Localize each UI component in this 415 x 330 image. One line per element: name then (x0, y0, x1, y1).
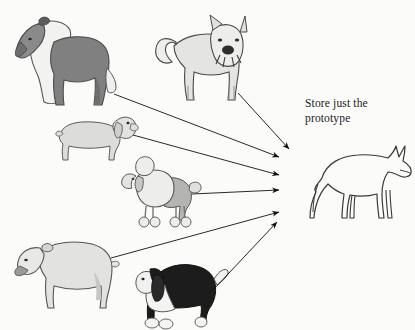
dog-basset-hound (133, 255, 231, 330)
caption-line-1: Store just the (305, 96, 410, 111)
caption-line-2: prototype (305, 111, 410, 126)
prototype-outline (310, 146, 411, 218)
poodle-muzzle (122, 174, 136, 189)
basset-paw-2 (159, 319, 173, 329)
dog-collie (8, 8, 120, 108)
akita-ear-right (240, 16, 247, 32)
dog-bulldog (12, 228, 120, 312)
prototype-caption: Store just the prototype (305, 96, 410, 125)
poodle-pom-3 (170, 217, 180, 227)
basset-ear (152, 275, 165, 301)
akita-leg-lines (188, 86, 234, 100)
poodle-ear (135, 176, 143, 192)
prototype-concept-figure: Store just the prototype (0, 0, 415, 330)
basset-paw-1 (145, 318, 159, 328)
bulldog-eye (24, 259, 28, 262)
basset-paw-3 (195, 317, 207, 327)
dachshund-eye (126, 122, 129, 124)
poodle-pom-1 (139, 217, 149, 227)
dog-akita (152, 10, 254, 108)
dachshund-body (59, 122, 120, 160)
collie-eye (28, 38, 32, 41)
basset-tail (214, 269, 228, 285)
poodle-pom-4 (181, 217, 191, 227)
dachshund-tail (56, 131, 63, 136)
poodle-tail-pom (189, 182, 201, 193)
dachshund-snout (130, 124, 138, 131)
dog-prototype (300, 140, 414, 234)
poodle-eye (132, 178, 135, 180)
poodle-topknot (136, 157, 154, 176)
akita-eye-left (218, 38, 222, 41)
prototype-front-leg (350, 195, 355, 218)
poodle-pom-2 (150, 217, 160, 227)
akita-nose (222, 46, 234, 55)
akita-tail (156, 39, 176, 63)
dog-poodle (120, 150, 206, 232)
basset-eye (141, 278, 144, 280)
prototype-muzzle-line (400, 170, 410, 173)
akita-eye-right (235, 38, 239, 41)
bulldog-tail (111, 261, 119, 267)
bulldog-ear (42, 244, 53, 252)
collie-tail (106, 68, 116, 93)
dachshund-ear (114, 122, 122, 138)
prototype-hind-leg (386, 190, 392, 218)
